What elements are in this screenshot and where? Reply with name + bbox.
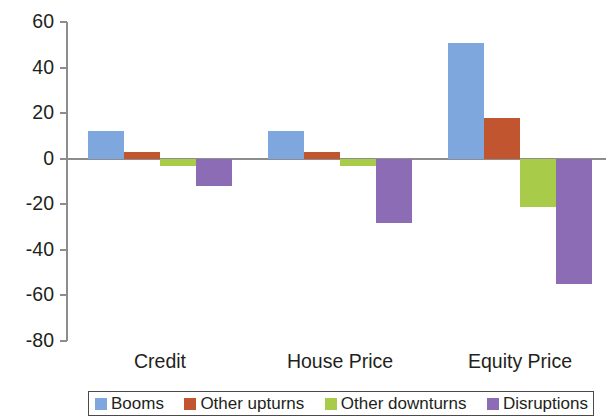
bar-other-upturns-house-price: [304, 152, 340, 159]
legend-swatch-icon: [325, 398, 337, 410]
bar-other-upturns-credit: [124, 152, 160, 159]
legend-item-disruptions: Disruptions: [487, 395, 588, 412]
legend-item-other-upturns: Other upturns: [184, 395, 304, 412]
x-axis-label-equity-price: Equity Price: [430, 352, 610, 372]
legend-swatch-icon: [95, 398, 107, 410]
y-axis-tick-label: 60: [0, 12, 54, 32]
bar-booms-equity-price: [448, 43, 484, 159]
x-axis-label-credit: Credit: [70, 352, 250, 372]
y-axis-tick-label: 20: [0, 103, 54, 123]
y-axis-tick-label: -80: [0, 331, 54, 351]
plot-area: [66, 22, 606, 340]
legend-label: Other upturns: [200, 395, 304, 412]
legend-swatch-icon: [487, 398, 499, 410]
y-axis-tick-label: -20: [0, 194, 54, 214]
y-axis-tick-label: -40: [0, 240, 54, 260]
chart-legend: BoomsOther upturnsOther downturnsDisrupt…: [88, 391, 594, 416]
y-axis-tick-label: 0: [0, 149, 54, 169]
bar-other-upturns-equity-price: [484, 118, 520, 159]
x-axis-label-house-price: House Price: [250, 352, 430, 372]
bar-other-downturns-house-price: [340, 159, 376, 166]
legend-item-other-downturns: Other downturns: [325, 395, 467, 412]
bar-other-downturns-credit: [160, 159, 196, 166]
y-axis-tick: [60, 340, 67, 342]
bar-chart: 6040200-20-40-60-80 CreditHouse PriceEqu…: [0, 0, 612, 419]
legend-label: Disruptions: [503, 395, 588, 412]
y-axis-tick-label: 40: [0, 58, 54, 78]
legend-label: Other downturns: [341, 395, 467, 412]
bar-disruptions-credit: [196, 159, 232, 186]
bar-booms-house-price: [268, 131, 304, 158]
bar-disruptions-house-price: [376, 159, 412, 223]
bar-booms-credit: [88, 131, 124, 158]
legend-item-booms: Booms: [95, 395, 164, 412]
legend-label: Booms: [111, 395, 164, 412]
legend-swatch-icon: [184, 398, 196, 410]
y-axis-tick-label: -60: [0, 285, 54, 305]
bar-other-downturns-equity-price: [520, 159, 556, 207]
bar-disruptions-equity-price: [556, 159, 592, 284]
